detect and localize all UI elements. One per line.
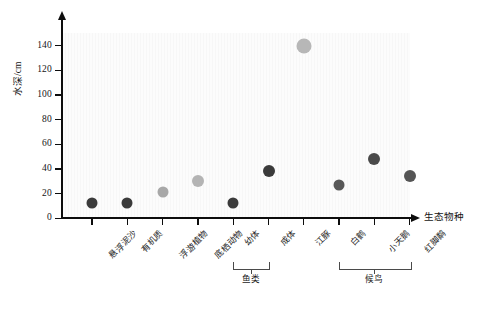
data-point (122, 198, 133, 209)
x-axis-arrow-icon (411, 214, 420, 222)
x-axis-tick-label: 成体 (278, 228, 298, 248)
data-point (157, 187, 168, 198)
y-axis-tick (55, 70, 62, 71)
x-axis-tick-label: 有机质 (139, 228, 165, 254)
y-axis-tick-label: 40 (12, 164, 52, 174)
x-axis-tick (233, 219, 234, 226)
y-axis-tick-label: 60 (12, 139, 52, 149)
y-axis-tick-label: 140 (12, 41, 52, 51)
data-point (228, 198, 239, 209)
y-axis-title: 水深/cm (13, 62, 23, 96)
x-axis-tick (197, 219, 198, 226)
x-axis-tick-label: 小天鹅 (386, 228, 412, 254)
data-point (87, 198, 98, 209)
figure-container: 020406080100120140 悬浮泥沙有机质浮游植物底栖动物幼体成体江豚… (0, 0, 480, 312)
x-axis-tick-label: 红脚鹬 (422, 228, 448, 254)
data-point (404, 170, 416, 182)
group-bracket-label: 候鸟 (365, 275, 383, 284)
x-axis-tick-label: 白鹤 (348, 228, 368, 248)
x-axis-tick (374, 219, 375, 226)
y-axis-tick (55, 168, 62, 169)
y-axis-tick (55, 144, 62, 145)
x-axis-tick (91, 219, 92, 226)
y-axis-tick-label: 0 (12, 213, 52, 223)
x-axis-tick-label: 江豚 (313, 228, 333, 248)
y-axis-tick-label: 20 (12, 189, 52, 199)
x-axis-tick (338, 219, 339, 226)
y-axis-tick (55, 94, 62, 95)
x-axis-tick-label: 底栖动物 (212, 228, 245, 261)
x-axis-tick (162, 219, 163, 226)
data-point (296, 38, 311, 53)
data-point (263, 165, 275, 177)
x-axis-tick-label: 幼体 (242, 228, 262, 248)
x-axis-tick-label: 悬浮泥沙 (107, 228, 140, 261)
plot-area (62, 33, 410, 218)
x-axis-tick (409, 219, 410, 226)
y-axis-tick-label: 80 (12, 115, 52, 125)
data-point (192, 175, 204, 187)
y-axis-tick (55, 218, 62, 219)
y-axis-tick (55, 193, 62, 194)
y-axis-tick (55, 45, 62, 46)
x-axis-title: 生态物种 (424, 212, 464, 222)
x-axis-tick-label: 浮游植物 (177, 228, 210, 261)
x-axis-tick (303, 219, 304, 226)
x-axis-tick (127, 219, 128, 226)
x-axis-tick (268, 219, 269, 226)
data-point (368, 153, 380, 165)
group-bracket-label: 鱼类 (242, 275, 260, 284)
data-point (334, 179, 345, 190)
y-axis-arrow-icon (58, 11, 66, 20)
x-axis-line (61, 217, 413, 219)
y-axis-tick (55, 119, 62, 120)
